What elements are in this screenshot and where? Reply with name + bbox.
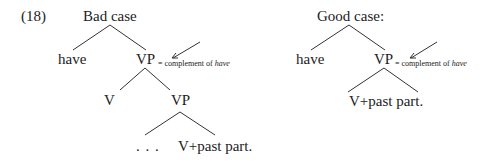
example-number: (18) — [21, 9, 46, 24]
good-case-title: Good case: — [317, 9, 384, 24]
bad-case-title: Bad case — [83, 9, 137, 24]
good-branch-vp-participle-right — [384, 68, 418, 92]
good-branch-vp-participle-left — [348, 68, 384, 92]
branch-vp2-ellipsis — [145, 112, 180, 135]
branch-vp-vp2 — [145, 68, 170, 90]
good-node-have: have — [296, 52, 324, 67]
bad-node-ellipsis: . . . — [136, 139, 160, 154]
bad-annotation-emph: have — [215, 59, 230, 68]
good-node-participle: V+past part. — [349, 94, 423, 109]
bad-node-vp2: VP — [171, 93, 190, 108]
bad-node-vp: VP — [136, 52, 155, 67]
good-branch-root-have — [311, 25, 349, 50]
bad-node-have: have — [58, 52, 86, 67]
bad-annotation-text: = complement of — [158, 59, 215, 68]
bad-node-v: V — [104, 93, 115, 108]
arrow-shaft — [173, 42, 200, 58]
branch-root-have — [73, 25, 110, 50]
bad-node-participle: V+past part. — [178, 139, 252, 154]
good-annotation: = complement of have — [395, 60, 467, 68]
good-branch-root-vp — [349, 25, 385, 50]
branch-root-vp — [110, 25, 146, 50]
good-arrow-shaft — [411, 42, 437, 58]
good-annotation-text: = complement of — [395, 59, 452, 68]
good-node-vp: VP — [374, 52, 393, 67]
bad-annotation: = complement of have — [158, 60, 230, 68]
branch-vp-v — [120, 68, 145, 90]
good-annotation-emph: have — [452, 59, 467, 68]
branch-vp2-participle — [180, 112, 215, 135]
